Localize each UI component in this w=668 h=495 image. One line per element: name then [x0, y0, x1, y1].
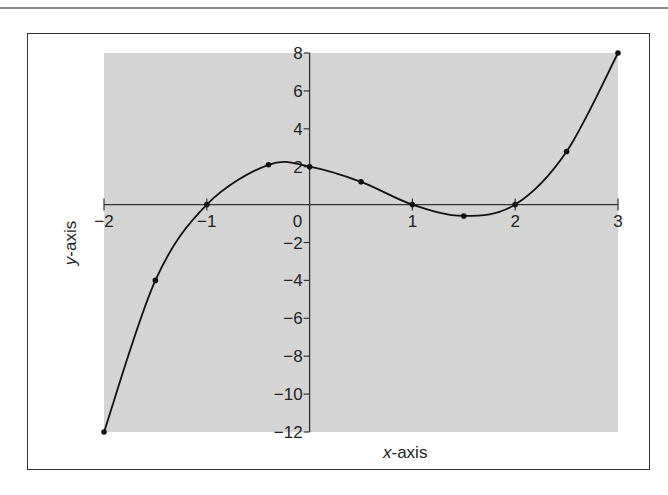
x-tick-label: −1 — [197, 212, 216, 231]
y-tick-label: −10 — [274, 385, 303, 404]
y-tick-label: 2 — [293, 158, 302, 177]
data-point — [615, 50, 621, 56]
y-axis-title: y-axis — [61, 221, 80, 266]
x-tick-label: 3 — [613, 212, 622, 231]
y-tick-label: 6 — [293, 82, 302, 101]
x-tick-label: −2 — [94, 212, 113, 231]
x-axis-title: x-axis — [382, 443, 427, 462]
data-point — [204, 202, 210, 208]
data-point — [307, 164, 313, 170]
chart: −2−11230−12−10−8−6−4−22468 x-axis y-axis — [0, 0, 668, 495]
x-tick-label: 1 — [408, 212, 417, 231]
y-tick-label: −4 — [283, 271, 302, 290]
data-point — [358, 179, 364, 185]
origin-label: 0 — [293, 212, 302, 231]
y-tick-label: −8 — [283, 347, 302, 366]
y-tick-label: 4 — [293, 120, 302, 139]
y-tick-label: −2 — [283, 234, 302, 253]
plot-area — [104, 53, 618, 432]
y-tick-label: 8 — [293, 44, 302, 63]
y-tick-label: −12 — [274, 423, 303, 442]
data-point — [101, 429, 107, 435]
data-point — [461, 213, 467, 219]
data-point — [153, 278, 159, 284]
data-point — [564, 149, 570, 155]
data-point — [266, 162, 272, 168]
data-point — [512, 202, 518, 208]
x-tick-label: 2 — [510, 212, 519, 231]
data-point — [410, 202, 416, 208]
y-tick-label: −6 — [283, 309, 302, 328]
